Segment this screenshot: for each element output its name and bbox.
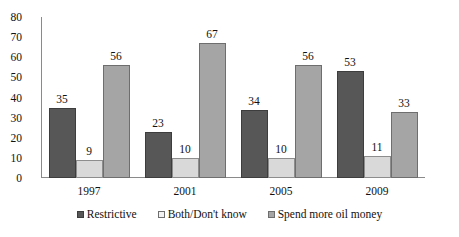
bar[interactable] xyxy=(295,65,322,178)
bar[interactable] xyxy=(364,156,391,178)
x-axis-tick-label: 1997 xyxy=(44,185,134,197)
y-axis-tick-label: 20 xyxy=(0,133,22,143)
bar[interactable] xyxy=(268,158,295,178)
legend-item[interactable]: Both/Don't know xyxy=(158,208,247,220)
x-axis-tick-label: 2009 xyxy=(332,185,422,197)
bar-value-label: 35 xyxy=(45,94,79,105)
y-axis-tick-label: 40 xyxy=(0,93,22,103)
legend-swatch-icon xyxy=(77,211,84,218)
bar[interactable] xyxy=(199,43,226,178)
bar[interactable] xyxy=(76,160,103,178)
legend-label: Both/Don't know xyxy=(168,208,247,220)
legend-label: Restrictive xyxy=(87,208,137,220)
bar-value-label: 53 xyxy=(333,57,367,68)
bar[interactable] xyxy=(49,108,76,178)
y-axis-tick-label: 70 xyxy=(0,32,22,42)
legend-label: Spend more oil money xyxy=(278,208,382,220)
bar-value-label: 11 xyxy=(360,142,394,153)
legend-item[interactable]: Restrictive xyxy=(77,208,137,220)
y-axis-tick-label: 60 xyxy=(0,52,22,62)
legend-swatch-icon xyxy=(268,211,275,218)
bar-value-label: 10 xyxy=(264,144,298,155)
y-axis-tick-label: 30 xyxy=(0,113,22,123)
bar-value-label: 10 xyxy=(168,144,202,155)
chart-legend: RestrictiveBoth/Don't knowSpend more oil… xyxy=(0,208,459,220)
bar[interactable] xyxy=(391,112,418,178)
bar-value-label: 34 xyxy=(237,96,271,107)
y-axis-tick-label: 0 xyxy=(0,173,22,183)
x-axis-tick-label: 2001 xyxy=(140,185,230,197)
bar-value-label: 56 xyxy=(291,51,325,62)
x-axis-tick-label: 2005 xyxy=(236,185,326,197)
bar-value-label: 23 xyxy=(141,118,175,129)
legend-item[interactable]: Spend more oil money xyxy=(268,208,382,220)
y-axis-tick-label: 10 xyxy=(0,153,22,163)
bar-value-label: 33 xyxy=(387,98,421,109)
bar-value-label: 56 xyxy=(99,51,133,62)
legend-swatch-icon xyxy=(158,211,165,218)
grouped-bar-chart: 80706050403020100 3595623106734105653113… xyxy=(0,0,459,237)
y-axis-tick-label: 50 xyxy=(0,72,22,82)
bar[interactable] xyxy=(103,65,130,178)
bar[interactable] xyxy=(172,158,199,178)
y-axis-tick-label: 80 xyxy=(0,12,22,22)
bar-value-label: 9 xyxy=(72,146,106,157)
bar-value-label: 67 xyxy=(195,29,229,40)
bar[interactable] xyxy=(337,71,364,178)
